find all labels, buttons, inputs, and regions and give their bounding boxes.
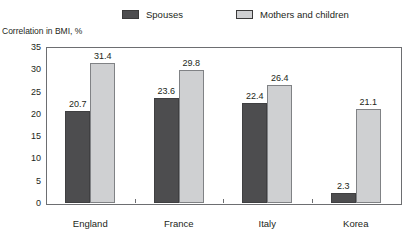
bar-value-label: 31.4 [84,51,121,61]
y-axis-tick-label: 35 [31,42,41,52]
y-axis-tick-label: 10 [31,153,41,163]
legend-item-label: Mothers and children [260,9,349,20]
y-axis-tick-label: 15 [31,131,41,141]
bar-value-label: 21.1 [350,97,387,107]
y-axis-tick-label: 25 [31,87,41,97]
square-swatch-icon [236,10,253,19]
chart-legend: Spouses Mothers and children [0,6,417,22]
x-axis-tick-mark [135,199,136,203]
x-axis-category-label: England [50,218,130,229]
x-axis-category-label: Korea [316,218,396,229]
square-swatch-icon [122,10,139,19]
y-axis-tick-label: 5 [36,176,41,186]
y-axis-tick-label: 0 [36,198,41,208]
bar-value-label: 26.4 [261,73,298,83]
bar-england-spouses [65,111,90,203]
x-axis-tick-mark [312,199,313,203]
bar-value-label: 29.8 [173,58,210,68]
y-axis-tick-label: 30 [31,64,41,74]
x-axis-category-label: Italy [227,218,307,229]
x-axis-category-label: France [139,218,219,229]
bar-england-mothers [90,63,115,203]
y-axis-tick-label: 20 [31,109,41,119]
legend-item-mothers-and-children: Mothers and children [236,6,349,22]
y-axis-title: Correlation in BMI, % [2,26,82,36]
bar-france-mothers [179,70,204,203]
bar-korea-spouses [331,193,356,203]
bar-italy-mothers [267,85,292,203]
legend-item-label: Spouses [146,9,183,20]
bar-italy-spouses [242,103,267,203]
bar-france-spouses [154,98,179,203]
x-axis-tick-mark [223,199,224,203]
chart-figure: Spouses Mothers and children Correlation… [0,0,417,241]
legend-item-spouses: Spouses [122,6,183,22]
bar-korea-mothers [356,109,381,203]
